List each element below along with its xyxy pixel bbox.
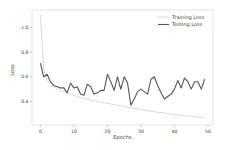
y-tick-label: 1.0: [21, 25, 28, 30]
series-lines: [40, 15, 204, 118]
x-tick-label: 10: [71, 129, 77, 134]
legend-label: Training Loss: [171, 14, 205, 21]
loss-chart: 01020304050 0.40.60.81.0 Epochs Loss Tra…: [0, 0, 227, 150]
series-line-training-loss: [40, 15, 204, 118]
x-tick-label: 40: [172, 129, 178, 134]
y-tick-label: 0.8: [21, 50, 28, 55]
y-axis-ticks: 0.40.60.81.0: [21, 25, 32, 104]
x-tick-label: 0: [39, 129, 42, 134]
x-axis-ticks: 01020304050: [39, 125, 211, 134]
y-tick-label: 0.4: [21, 99, 28, 104]
legend-label: Testing Loss: [171, 21, 203, 28]
x-axis-label: Epochs: [113, 134, 132, 141]
x-tick-label: 50: [205, 129, 211, 134]
y-axis-label: Loss: [9, 64, 15, 76]
series-line-testing-loss: [40, 63, 204, 105]
legend: Training LossTesting Loss: [158, 14, 205, 29]
plot-frame: [32, 10, 213, 125]
x-tick-label: 20: [104, 129, 110, 134]
y-tick-label: 0.6: [21, 74, 28, 79]
x-tick-label: 30: [138, 129, 144, 134]
